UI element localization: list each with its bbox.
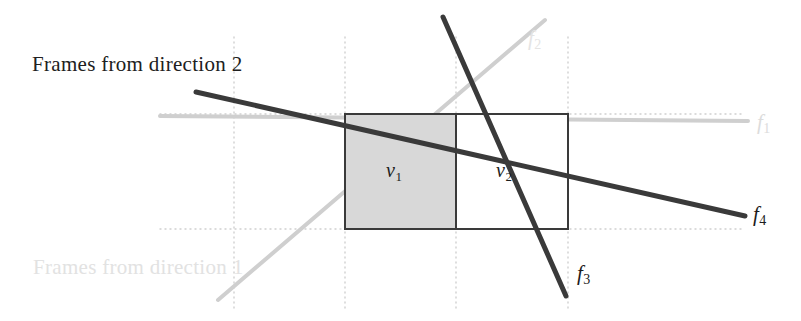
label-v1: v1 <box>386 159 402 185</box>
label-v2: v2 <box>496 159 512 185</box>
label-f3-subscript: 3 <box>583 272 591 287</box>
label-f4-base: f <box>753 202 759 226</box>
label-f3: f3 <box>577 261 590 288</box>
label-v1-subscript: 1 <box>395 169 402 184</box>
frames-direction-diagram: Frames from direction 2 Frames from dire… <box>0 0 801 321</box>
label-f4-subscript: 4 <box>759 213 767 228</box>
label-v2-base: v <box>496 159 505 181</box>
label-v2-subscript: 2 <box>505 169 512 184</box>
caption-frames-from-direction-1: Frames from direction 1 <box>33 255 243 280</box>
label-f1: f1 <box>757 110 770 137</box>
label-f4: f4 <box>753 202 766 229</box>
label-f1-base: f <box>757 110 763 134</box>
caption-frames-from-direction-2: Frames from direction 2 <box>32 52 242 77</box>
label-v1-base: v <box>386 159 395 181</box>
label-f1-subscript: 1 <box>763 121 771 136</box>
label-f2-subscript: 2 <box>534 37 542 52</box>
label-f3-base: f <box>577 261 583 285</box>
label-f2: f2 <box>528 26 541 53</box>
label-f2-base: f <box>528 26 534 50</box>
